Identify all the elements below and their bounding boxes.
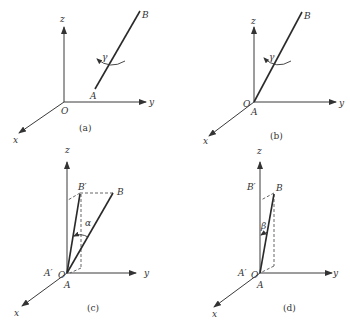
point-b-label-b: B <box>303 11 311 21</box>
y-label-d: y <box>332 268 339 278</box>
point-a-label-b: A <box>250 107 258 117</box>
point-aprime-label-c: A′ <box>43 268 53 278</box>
caption-a: (a) <box>79 123 91 133</box>
dashed-base-d <box>262 266 274 272</box>
beta-label-d: β <box>260 221 266 231</box>
alpha-label-c: α <box>85 218 91 228</box>
segment-ab-a <box>95 11 140 89</box>
point-b-label-c: B <box>116 187 124 197</box>
point-b-label-d: B <box>275 183 283 193</box>
stray-z-b: z <box>256 146 262 156</box>
x-label-c: x <box>14 308 19 318</box>
point-a-label-c: A <box>63 280 71 290</box>
segment-ab-d <box>260 194 274 273</box>
y-label-a: y <box>148 97 155 107</box>
rotation-diagram: z y x O A B γ (a) z z y x O A B γ (b) z <box>0 0 350 324</box>
y-label-b: y <box>338 98 345 108</box>
x-label-d: x <box>212 309 217 319</box>
panel-c: y x O A A′ B′ B α (c) <box>14 162 150 318</box>
dashed-bprime-z-c <box>68 193 80 200</box>
point-bprime-label-d: B′ <box>246 182 256 192</box>
point-a-label-d: A <box>256 280 264 290</box>
x-label-a: x <box>13 135 18 145</box>
point-b-label-a: B <box>141 10 149 20</box>
dashed-base-c <box>70 268 81 273</box>
x-label-b: x <box>203 136 208 146</box>
caption-c: (c) <box>87 303 99 313</box>
stray-z-a: z <box>64 145 70 155</box>
panel-b: z y x O A B γ (b) z <box>203 11 345 156</box>
point-a-label-a: A <box>89 91 97 101</box>
origin-label-c: O <box>58 270 66 280</box>
caption-b: (b) <box>270 131 283 141</box>
panel-a: z y x O A B γ (a) z <box>13 10 155 155</box>
dashed-b-z-d <box>261 193 274 200</box>
x-axis-a <box>19 102 64 133</box>
gamma-label-b: γ <box>269 52 275 62</box>
z-label-b: z <box>250 16 256 26</box>
panel-d: y x O A A′ B′ B β (d) <box>212 162 339 319</box>
caption-d: (d) <box>283 303 296 313</box>
y-label-c: y <box>143 268 150 278</box>
origin-label-a: O <box>61 106 69 116</box>
origin-label-d: O <box>251 270 259 280</box>
gamma-label-a: γ <box>102 52 108 62</box>
origin-label-b: O <box>243 99 251 109</box>
point-bprime-label-c: B′ <box>77 182 87 192</box>
z-label-a: z <box>59 14 65 24</box>
point-aprime-label-d: A′ <box>237 268 247 278</box>
segment-ab-b <box>254 12 302 102</box>
